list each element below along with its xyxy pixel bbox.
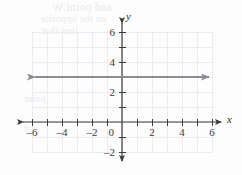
y-tick-label: 4: [110, 56, 116, 68]
y-axis-label: y: [125, 10, 131, 22]
x-tick-label: –6: [26, 126, 39, 138]
x-tick-label: 6: [209, 126, 215, 138]
x-tick-label: 2: [149, 126, 155, 138]
x-tick-label: –2: [86, 126, 98, 138]
y-tick-label: 6: [110, 26, 116, 38]
y-tick-label: –2: [103, 146, 115, 158]
coordinate-plane-figure: –6–4–20246–2246 xy: [0, 0, 242, 175]
x-tick-label: 4: [179, 126, 185, 138]
x-tick-label: –4: [56, 126, 69, 138]
y-tick-label: 2: [110, 86, 116, 98]
x-tick-label: 0: [109, 126, 115, 138]
x-axis-label: x: [226, 113, 232, 125]
axis-name-labels: xy: [125, 10, 232, 125]
graph-screenshot: and point W on the opposite line that po…: [0, 0, 242, 175]
